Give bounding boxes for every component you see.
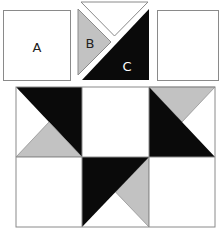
- cell-r1-c2: [82, 87, 149, 157]
- cell-r1-c3: [149, 87, 215, 157]
- cell-r1-c1: [16, 87, 82, 157]
- piece-c-label: C: [122, 59, 131, 74]
- piece-b-label: B: [86, 36, 95, 51]
- cell-r2-c1: [16, 157, 82, 227]
- piece-a: A: [4, 11, 71, 81]
- split-block: B C: [78, 2, 149, 80]
- assembled-block: [16, 87, 215, 227]
- cell-r2-c2: [82, 157, 149, 227]
- quilt-diagram: A B C: [0, 0, 221, 236]
- blank-square: [158, 11, 219, 81]
- cell-r2-c3: [149, 157, 215, 227]
- piece-a-label: A: [33, 40, 42, 55]
